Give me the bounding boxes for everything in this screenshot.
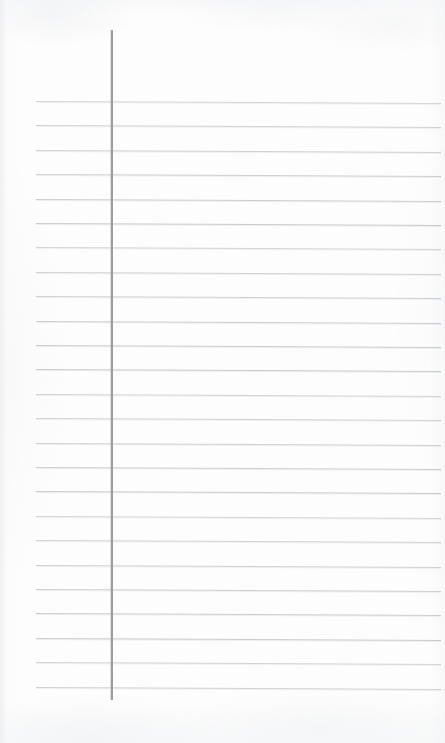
- left-margin-column[interactable]: [0, 101, 111, 689]
- lined-page-canvas: [0, 0, 445, 743]
- writing-body-column[interactable]: [112, 101, 445, 689]
- footer-blank-area[interactable]: [0, 689, 445, 743]
- header-blank-area[interactable]: [0, 0, 445, 101]
